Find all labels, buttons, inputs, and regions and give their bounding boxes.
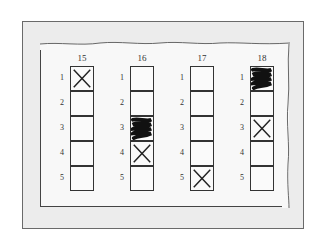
scribble-mark-icon: [251, 67, 273, 90]
row-label: 2: [54, 98, 64, 107]
ballot-box[interactable]: [190, 116, 214, 141]
ballot-box[interactable]: [250, 66, 274, 91]
row-label: 1: [54, 73, 64, 82]
column-number: 15: [69, 53, 95, 63]
column-number: 17: [189, 53, 215, 63]
ballot-box[interactable]: [70, 166, 94, 191]
row-label: 4: [54, 148, 64, 157]
torn-edge-right: [282, 44, 292, 208]
row-label: 3: [114, 123, 124, 132]
ballot-box[interactable]: [70, 66, 94, 91]
ballot-box[interactable]: [130, 116, 154, 141]
row-label: 1: [234, 73, 244, 82]
ballot-box[interactable]: [70, 116, 94, 141]
x-mark-icon: [71, 67, 93, 90]
row-label: 4: [114, 148, 124, 157]
ballot-box[interactable]: [130, 166, 154, 191]
ballot-box[interactable]: [250, 166, 274, 191]
column-number: 16: [129, 53, 155, 63]
row-label: 4: [174, 148, 184, 157]
x-mark-icon: [191, 167, 213, 190]
column-number: 18: [249, 53, 275, 63]
ballot-box[interactable]: [70, 91, 94, 116]
row-label: 2: [114, 98, 124, 107]
ballot-box[interactable]: [190, 166, 214, 191]
x-mark-icon: [131, 142, 153, 165]
row-label: 3: [54, 123, 64, 132]
row-label: 1: [174, 73, 184, 82]
ballot-box[interactable]: [250, 116, 274, 141]
ballot-box[interactable]: [190, 91, 214, 116]
x-mark-icon: [251, 117, 273, 140]
ballot-box[interactable]: [130, 141, 154, 166]
ballot-box[interactable]: [190, 141, 214, 166]
ballot-box[interactable]: [130, 66, 154, 91]
row-label: 5: [234, 173, 244, 182]
row-label: 5: [54, 173, 64, 182]
row-label: 3: [174, 123, 184, 132]
row-label: 3: [234, 123, 244, 132]
ballot-box[interactable]: [250, 141, 274, 166]
ballot-box[interactable]: [190, 66, 214, 91]
row-label: 1: [114, 73, 124, 82]
row-label: 5: [114, 173, 124, 182]
ballot-box[interactable]: [130, 91, 154, 116]
ballot-box[interactable]: [70, 141, 94, 166]
torn-edge-top: [40, 40, 290, 50]
ballot-box[interactable]: [250, 91, 274, 116]
row-label: 2: [174, 98, 184, 107]
row-label: 2: [234, 98, 244, 107]
scribble-mark-icon: [131, 117, 153, 140]
row-label: 4: [234, 148, 244, 157]
row-label: 5: [174, 173, 184, 182]
